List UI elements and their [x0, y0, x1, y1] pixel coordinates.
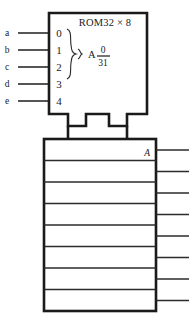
address-pin-2: 2: [56, 61, 62, 73]
address-pin-0: 0: [56, 27, 62, 39]
bus-leg-group: [68, 126, 127, 139]
address-pin-1: 1: [56, 44, 62, 56]
output-wire-group: [156, 150, 189, 301]
address-label-A: A: [88, 49, 96, 60]
address-pin-4: 4: [56, 95, 62, 107]
output-block-label-A: A: [143, 148, 150, 158]
input-label-group: a b c d e: [5, 28, 10, 106]
input-label-d: d: [5, 79, 10, 89]
address-pin-3: 3: [56, 78, 62, 90]
input-label-e: e: [5, 96, 9, 106]
rom-title: ROM32 × 8: [79, 17, 132, 28]
input-wire-group: [18, 33, 49, 101]
input-label-c: c: [5, 62, 9, 72]
rom-block-diagram-canvas: a b c d e ROM32 × 8 0 1 2 3 4 A 0 31: [0, 0, 196, 328]
diagram-svg: a b c d e ROM32 × 8 0 1 2 3 4 A 0 31: [0, 0, 196, 328]
input-label-a: a: [5, 28, 10, 38]
rom-body: [49, 13, 147, 126]
address-range-top: 0: [101, 45, 106, 55]
address-range-bottom: 31: [98, 58, 108, 68]
input-label-b: b: [5, 45, 10, 55]
